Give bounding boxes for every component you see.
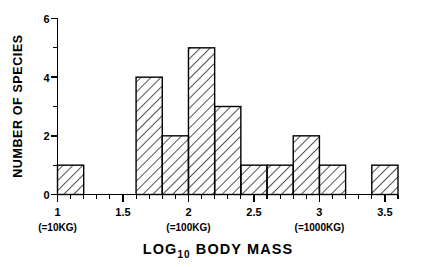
x-tick-label: 2.5 <box>246 206 261 218</box>
bars-group <box>58 48 399 195</box>
histogram-bar <box>293 136 319 195</box>
histogram-bar <box>162 136 188 195</box>
histogram-figure: 11.522.533.5 0246 (=10KG)(=100KG)(=1000K… <box>0 0 434 267</box>
x-axis-ticks <box>58 195 399 202</box>
x-axis-sub-annotation: (=100KG) <box>166 222 210 233</box>
x-tick-label: 2 <box>185 206 191 218</box>
y-axis-title: NUMBER OF SPECIES <box>11 34 25 178</box>
histogram-bar <box>188 48 214 195</box>
x-tick-label: 3.5 <box>377 206 392 218</box>
x-axis-tick-labels: 11.522.533.5 <box>54 206 392 218</box>
histogram-bar <box>136 77 162 194</box>
x-axis-sub-annotation: (=10KG) <box>38 222 77 233</box>
histogram-bar <box>372 165 398 194</box>
y-tick-label: 6 <box>43 13 49 25</box>
x-axis-title: LOG10 BODY MASS <box>143 241 294 260</box>
x-axis-title-subscript: 10 <box>177 249 190 260</box>
x-tick-label: 3 <box>316 206 322 218</box>
histogram-bar <box>267 165 293 194</box>
x-axis-sub-annotation: (=1000KG) <box>295 222 345 233</box>
histogram-bar <box>319 165 345 194</box>
histogram-svg: 11.522.533.5 0246 (=10KG)(=100KG)(=1000K… <box>0 0 434 267</box>
y-tick-label: 0 <box>43 189 49 201</box>
x-axis-title-rest: BODY MASS <box>191 241 294 257</box>
histogram-bar <box>241 165 267 194</box>
x-tick-label: 1 <box>54 206 60 218</box>
x-axis-title-main: LOG <box>143 241 178 257</box>
y-tick-label: 2 <box>43 130 49 142</box>
x-axis-sub-annotations: (=10KG)(=100KG)(=1000KG) <box>38 222 344 233</box>
x-tick-label: 1.5 <box>115 206 130 218</box>
y-axis-tick-labels: 0246 <box>43 13 50 201</box>
y-tick-label: 4 <box>43 72 50 84</box>
histogram-bar <box>215 107 241 195</box>
y-axis-ticks <box>51 19 58 195</box>
histogram-bar <box>58 165 84 194</box>
